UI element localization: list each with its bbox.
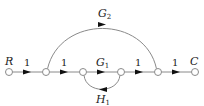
node-2 [80, 69, 87, 76]
gain-n1-n2: 1 [61, 58, 67, 68]
label-h1: H1 [96, 94, 110, 106]
g1-sub: 1 [105, 62, 109, 70]
g2-main: G [98, 7, 107, 20]
h1-sub: 1 [106, 99, 110, 106]
branch-h1-loop [84, 75, 120, 89]
label-g2: G2 [98, 8, 111, 21]
label-r: R [5, 56, 13, 67]
label-c: C [190, 56, 198, 67]
h1-main: H [96, 93, 106, 106]
arrow-icon [135, 70, 143, 75]
arrow-icon [98, 22, 106, 27]
node-3 [118, 69, 125, 76]
arrow-icon [99, 87, 107, 92]
g1-main: G [96, 56, 105, 69]
gain-n4-c: 1 [172, 58, 178, 68]
signal-flow-graph: R C 1 1 1 1 G1 G2 H1 [0, 0, 204, 106]
gain-n3-n4: 1 [135, 58, 141, 68]
node-c [192, 69, 199, 76]
arrow-icon [23, 70, 31, 75]
arrow-icon [60, 70, 68, 75]
arrow-icon [172, 70, 180, 75]
node-r [6, 69, 13, 76]
gain-r-n1: 1 [24, 58, 30, 68]
node-4 [155, 69, 162, 76]
g2-sub: 2 [107, 13, 111, 21]
arrow-icon [97, 70, 105, 75]
node-1 [43, 69, 50, 76]
label-g1: G1 [96, 57, 109, 70]
